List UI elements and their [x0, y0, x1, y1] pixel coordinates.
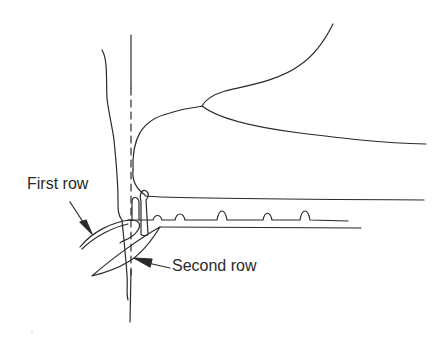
second-row-label: Second row [172, 258, 257, 274]
bottom-horizontal [160, 227, 361, 228]
lower-curve [202, 106, 426, 144]
upper-curve [133, 24, 333, 170]
middle-horizontal [128, 211, 348, 221]
upright-loop [132, 198, 139, 221]
first-row-label: First row [27, 176, 88, 192]
top-horizontal [145, 196, 424, 200]
hook-element [140, 191, 148, 236]
diagram-canvas [0, 0, 444, 340]
left-outline [102, 50, 128, 300]
reference-line-bottom [130, 270, 131, 322]
second-row-arrowhead [134, 258, 152, 267]
stray-dot [31, 331, 32, 332]
first-row-arrowhead [80, 220, 92, 234]
